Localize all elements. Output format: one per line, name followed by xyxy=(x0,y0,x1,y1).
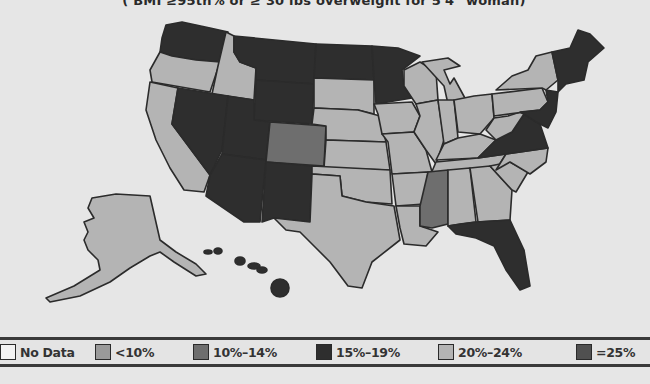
legend-item-lt10: <10% xyxy=(95,344,154,360)
state-nd xyxy=(314,44,374,80)
state-nm xyxy=(262,162,312,222)
legend-item-no-data: No Data xyxy=(0,344,75,360)
state-fl xyxy=(448,220,530,290)
state-hi xyxy=(204,248,289,297)
legend-swatch-ge25 xyxy=(576,344,592,360)
legend-item-ge25: =25% xyxy=(576,344,635,360)
state-wy xyxy=(254,80,314,124)
legend-swatch-15-19 xyxy=(316,344,332,360)
state-new-england xyxy=(552,30,604,92)
legend: No Data <10% 10%–14% 15%–19% 20%–24% =25… xyxy=(0,337,650,367)
state-ia xyxy=(374,102,420,134)
legend-item-15-19: 15%–19% xyxy=(316,344,400,360)
legend-swatch-no-data xyxy=(0,344,16,360)
legend-item-20-24: 20%–24% xyxy=(438,344,522,360)
state-ks xyxy=(324,140,390,170)
legend-swatch-20-24 xyxy=(438,344,454,360)
state-co xyxy=(266,122,326,166)
legend-swatch-lt10 xyxy=(95,344,111,360)
us-choropleth-map xyxy=(0,0,648,340)
state-ak xyxy=(46,194,206,302)
legend-item-10-14: 10%–14% xyxy=(193,344,277,360)
legend-swatch-10-14 xyxy=(193,344,209,360)
state-ny xyxy=(496,52,558,90)
